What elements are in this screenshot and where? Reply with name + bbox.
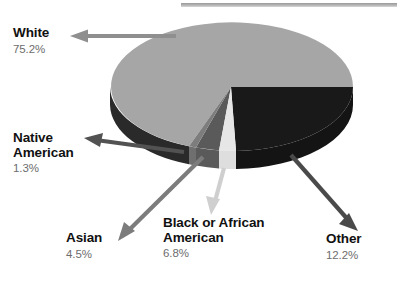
callout-label-other: Other 12.2% (326, 232, 362, 262)
callout-label-white-percent: 75.2% (13, 42, 49, 56)
callout-label-other-name: Other (326, 232, 362, 247)
arrow-black-or-african-american (206, 168, 224, 215)
callout-label-black-or-african-american-percent: 6.8% (163, 246, 264, 260)
slice-black-front-face (219, 150, 236, 169)
callout-label-white: White 75.2% (13, 26, 49, 56)
arrow-other (291, 155, 358, 231)
callout-label-native-american-name-line1: Native (13, 131, 74, 146)
callout-label-native-american-percent: 1.3% (13, 161, 74, 175)
callout-label-asian-name: Asian (66, 231, 102, 246)
callout-label-native-american-name-line2: American (13, 146, 74, 161)
callout-label-native-american: Native American 1.3% (13, 131, 74, 175)
callout-label-black-or-african-american-name-line2: American (163, 231, 264, 246)
slice-other (231, 87, 353, 151)
pie-top-faces (111, 22, 353, 151)
callout-label-other-percent: 12.2% (326, 248, 362, 262)
pie-chart-figure: White 75.2% Native American 1.3% Asian 4… (0, 0, 397, 285)
callout-label-black-or-african-american: Black or African American 6.8% (163, 216, 264, 260)
callout-label-asian: Asian 4.5% (66, 231, 102, 261)
callout-label-black-or-african-american-name-line1: Black or African (163, 216, 264, 231)
callout-label-white-name: White (13, 26, 49, 41)
callout-label-asian-percent: 4.5% (66, 247, 102, 261)
